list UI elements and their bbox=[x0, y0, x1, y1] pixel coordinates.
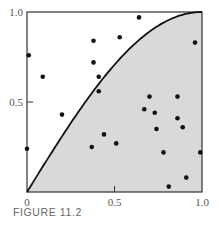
data-point bbox=[117, 35, 122, 40]
shaded-region-under-curve bbox=[27, 12, 202, 192]
data-point bbox=[91, 39, 96, 44]
data-point bbox=[152, 111, 157, 116]
data-point bbox=[60, 112, 65, 117]
data-point bbox=[26, 53, 31, 58]
data-point bbox=[96, 75, 101, 80]
data-point bbox=[166, 184, 171, 189]
data-point bbox=[142, 107, 147, 112]
data-point bbox=[180, 125, 185, 130]
y-tick-label: 1.0 bbox=[9, 6, 23, 18]
figure-chart: 00.51.00.51.0 bbox=[0, 0, 219, 230]
data-point bbox=[102, 132, 107, 137]
data-point bbox=[175, 116, 180, 121]
data-point bbox=[198, 150, 203, 155]
data-point bbox=[96, 89, 101, 94]
data-point bbox=[161, 150, 166, 155]
data-point bbox=[137, 15, 142, 20]
x-tick-label: 0.5 bbox=[108, 196, 122, 208]
data-point bbox=[89, 145, 94, 150]
data-point bbox=[40, 75, 45, 80]
data-point bbox=[193, 40, 198, 45]
data-point bbox=[175, 94, 180, 99]
data-point bbox=[25, 147, 30, 152]
plot-area bbox=[25, 12, 203, 192]
x-tick-label: 1.0 bbox=[195, 196, 209, 208]
data-point bbox=[114, 141, 119, 146]
data-point bbox=[184, 175, 189, 180]
data-point bbox=[91, 60, 96, 65]
figure-caption: FIGURE 11.2 bbox=[13, 206, 82, 218]
data-point bbox=[147, 94, 152, 99]
y-tick-label: 0.5 bbox=[9, 96, 23, 108]
data-point bbox=[154, 127, 159, 132]
